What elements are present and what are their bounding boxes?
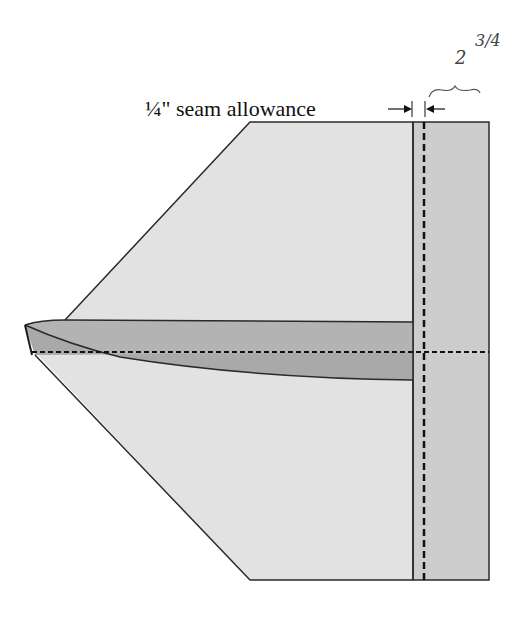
seam-allowance-label: ¼" seam allowance [145,96,316,121]
left-arrowhead-icon [404,105,412,113]
handwritten-measure-fraction: 3/4 [475,31,501,50]
handwritten-brace-icon [429,86,480,97]
bottom-fabric-panel [35,352,413,580]
top-fabric-panel [35,122,413,352]
sewing-diagram: ¼" seam allowance 2 3/4 [0,0,519,619]
handwritten-measure-whole: 2 [454,47,466,68]
right-arrowhead-icon [426,105,434,113]
